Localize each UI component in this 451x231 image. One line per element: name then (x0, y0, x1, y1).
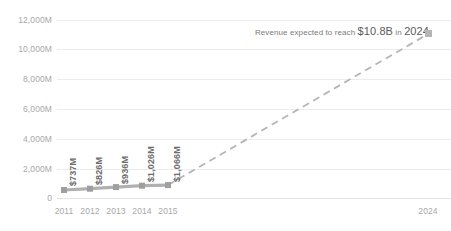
annotation-value: $10.8B (358, 25, 393, 37)
data-marker-2011 (61, 187, 67, 193)
y-tick-label-8000: 8,000M (0, 74, 52, 84)
y-tick-label-4000: 4,000M (0, 134, 52, 144)
projection-annotation: Revenue expected to reach $10.8B in 2024 (255, 26, 429, 37)
y-tick-label-2000: 2,000M (0, 164, 52, 174)
revenue-projection-chart: 12,000M 10,000M 8,000M 6,000M 4,000M 2,0… (0, 0, 451, 231)
data-label-2012: $826M (94, 157, 104, 185)
data-label-2011: $737M (68, 158, 78, 186)
actual-revenue-line (64, 185, 168, 190)
data-marker-2015 (165, 182, 171, 188)
x-tick-label-2013: 2013 (106, 206, 125, 216)
x-tick-label-2011: 2011 (55, 206, 74, 216)
gridline-10000 (57, 49, 451, 50)
annotation-mid: in (393, 28, 404, 37)
data-label-2015: $1,066M (172, 146, 182, 182)
gridline-6000 (57, 109, 451, 110)
data-marker-2012 (87, 186, 93, 192)
x-tick-label-2014: 2014 (132, 206, 151, 216)
y-tick-label-0: 0 (0, 193, 52, 203)
annotation-prefix: Revenue expected to reach (255, 28, 358, 37)
gridline-4000 (57, 139, 451, 140)
gridline-0 (57, 198, 451, 199)
projection-endpoint-marker (425, 30, 432, 37)
y-tick-label-6000: 6,000M (0, 104, 52, 114)
gridline-2000 (57, 169, 451, 170)
data-label-2014: $1,026M (146, 146, 156, 182)
x-tick-label-2024: 2024 (418, 206, 437, 216)
gridline-12000 (57, 20, 451, 21)
y-tick-label-12000: 12,000M (0, 15, 52, 25)
data-label-2013: $936M (120, 156, 130, 184)
data-marker-2013 (113, 184, 119, 190)
data-marker-2014 (139, 183, 145, 189)
x-tick-label-2012: 2012 (80, 206, 99, 216)
y-tick-label-10000: 10,000M (0, 44, 52, 54)
gridline-8000 (57, 79, 451, 80)
x-tick-label-2015: 2015 (158, 206, 177, 216)
